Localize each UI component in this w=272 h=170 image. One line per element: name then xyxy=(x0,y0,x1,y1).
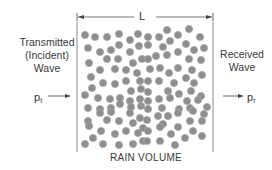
rain-drop xyxy=(84,104,91,111)
rain-drop xyxy=(103,33,110,40)
rain-drop xyxy=(106,95,113,102)
rain-drop xyxy=(146,65,153,72)
left-label-line-2: (Incident) xyxy=(4,49,90,62)
rain-drop xyxy=(203,103,210,110)
rain-drop xyxy=(174,123,181,130)
rain-drop xyxy=(189,127,196,134)
rain-drop xyxy=(143,137,150,144)
rain-drop xyxy=(156,64,163,71)
rain-drop xyxy=(185,25,192,32)
rain-drops xyxy=(81,25,210,148)
rain-drop xyxy=(133,69,140,76)
rain-drop xyxy=(154,112,161,119)
rain-drop xyxy=(144,88,151,95)
rain-drop xyxy=(122,77,129,84)
rain-drop xyxy=(187,87,194,94)
rain-drop xyxy=(189,107,196,114)
rain-drop xyxy=(190,79,197,86)
rain-drop xyxy=(97,127,104,134)
rain-drop xyxy=(122,127,129,134)
rain-drop xyxy=(137,102,144,109)
rain-drop xyxy=(196,33,203,40)
rain-drop xyxy=(171,141,178,148)
diagram-canvas xyxy=(0,0,272,170)
right-label-line-1: Received xyxy=(214,48,270,61)
rain-drop xyxy=(115,41,122,48)
rain-drop xyxy=(155,95,162,102)
rain-drop xyxy=(111,80,118,87)
rain-drop xyxy=(91,33,98,40)
rain-drop xyxy=(129,59,136,66)
rain-drop xyxy=(134,129,141,136)
rain-drop xyxy=(200,44,207,51)
dimension-arrowhead-right xyxy=(206,15,212,19)
pr-subscript: r xyxy=(253,97,255,104)
input-arrowhead xyxy=(65,94,71,98)
rain-drop xyxy=(198,71,205,78)
rain-drop xyxy=(144,77,151,84)
rain-drop xyxy=(165,69,172,76)
rain-drop xyxy=(99,140,106,147)
rain-drop xyxy=(198,117,205,124)
rain-drop xyxy=(144,127,151,134)
rain-drop xyxy=(115,141,122,148)
transmitted-power-label: pt xyxy=(34,91,42,104)
left-label-line-3: Wave xyxy=(4,62,90,75)
rain-drop xyxy=(103,116,110,123)
rain-drop xyxy=(174,31,181,38)
rain-drop xyxy=(135,42,142,49)
rain-drop xyxy=(126,36,133,43)
rain-drop xyxy=(158,104,165,111)
rain-drop xyxy=(144,97,151,104)
rain-drop xyxy=(99,79,106,86)
rain-drop xyxy=(85,122,92,129)
rain-drop xyxy=(134,30,141,37)
pt-subscript: t xyxy=(40,97,42,104)
rain-drop xyxy=(107,108,114,115)
rain-drop xyxy=(188,66,195,73)
rain-drop xyxy=(144,33,151,40)
rain-drop xyxy=(194,96,201,103)
rain-volume-label: RAIN VOLUME xyxy=(80,152,212,163)
rain-drop xyxy=(137,85,144,92)
rain-drop xyxy=(144,41,151,48)
rain-drop xyxy=(126,109,133,116)
rain-drop xyxy=(96,48,103,55)
rain-drop xyxy=(175,90,182,97)
rain-drop xyxy=(107,46,114,53)
rain-drop xyxy=(167,130,174,137)
rain-drop xyxy=(198,132,205,139)
rain-drop xyxy=(190,46,197,53)
rain-drop xyxy=(166,94,173,101)
rain-drop xyxy=(174,64,181,71)
rain-drop xyxy=(163,51,170,58)
rain-drop xyxy=(164,87,171,94)
rain-drop xyxy=(115,117,122,124)
rain-drop xyxy=(156,123,163,130)
rain-drop xyxy=(126,48,133,55)
rain-drop xyxy=(182,74,189,81)
rain-drop xyxy=(186,117,193,124)
dimension-arrowhead-left xyxy=(78,15,84,19)
rain-drop xyxy=(163,26,170,33)
rain-drop xyxy=(127,87,134,94)
left-label-line-1: Transmitted xyxy=(4,36,90,49)
transmitted-wave-label: Transmitted (Incident) Wave xyxy=(4,36,90,75)
rain-drop xyxy=(81,91,88,98)
rain-drop xyxy=(129,119,136,126)
rain-drop xyxy=(103,55,110,62)
rain-drop xyxy=(170,79,177,86)
rain-drop xyxy=(152,52,159,59)
rain-drop xyxy=(156,137,163,144)
rain-drop xyxy=(200,110,207,117)
output-arrowhead xyxy=(238,94,244,98)
rain-drop xyxy=(122,66,129,73)
rain-drop xyxy=(116,100,123,107)
rain-drop xyxy=(89,134,96,141)
rain-drop xyxy=(111,65,118,72)
rain-drop xyxy=(185,55,192,62)
rain-drop xyxy=(129,140,136,147)
received-power-label: pr xyxy=(247,91,255,104)
rain-drop xyxy=(181,134,188,141)
rain-drop xyxy=(136,95,143,102)
